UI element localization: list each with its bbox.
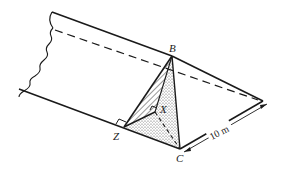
- wavy-break-edge: [19, 28, 53, 97]
- point-label-x: X: [160, 104, 167, 115]
- point-label-c: C: [176, 153, 183, 164]
- edge-b-right: [172, 56, 263, 101]
- arrowhead-right: [260, 104, 267, 109]
- ridge-edge: [52, 12, 172, 56]
- prism-diagram: [0, 0, 283, 172]
- point-label-z: Z: [113, 131, 119, 142]
- point-label-b: B: [169, 43, 176, 54]
- break-curl: [50, 12, 53, 28]
- arrowhead-left: [184, 147, 191, 152]
- right-angle-marker-z: [116, 119, 126, 124]
